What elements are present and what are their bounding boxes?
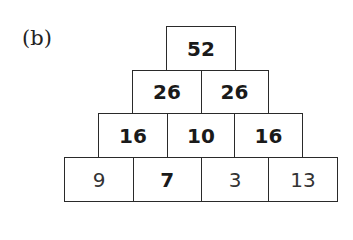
pyramid-cell-r1-c1: 26 — [201, 70, 269, 114]
pyramid-cell-r2-c0: 16 — [98, 113, 168, 158]
pyramid-cell-r2-c1: 10 — [167, 113, 236, 158]
pyramid-cell-r1-c0: 26 — [132, 70, 202, 114]
pyramid-cell-r3-c0: 9 — [64, 157, 134, 202]
pyramid-cell-r3-c1: 7 — [133, 157, 203, 202]
pyramid-cell-r0-c0: 52 — [166, 26, 236, 71]
pyramid-cell-r3-c3: 13 — [268, 157, 338, 202]
pyramid-cell-r3-c2: 3 — [201, 157, 270, 202]
pyramid-cell-r2-c2: 16 — [234, 113, 303, 158]
figure-label: (b) — [22, 26, 52, 50]
